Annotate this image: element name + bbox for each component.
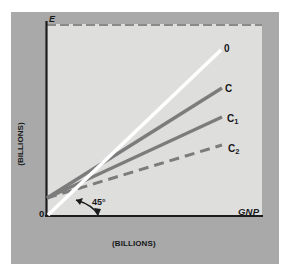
figure-root: E 0 GNP 45° 0 C C1 C2 (BILLIONS) (BILLIO… bbox=[0, 0, 291, 273]
series-label-reference-45: 0 bbox=[224, 44, 230, 54]
series-line-reference-45 bbox=[48, 50, 221, 215]
series-label-c1-subscript: 1 bbox=[234, 117, 238, 126]
series-line-c1 bbox=[47, 117, 222, 198]
y-axis-end-label: E bbox=[49, 15, 55, 24]
series-label-c: C bbox=[225, 84, 232, 94]
y-axis-title: (BILLIONS) bbox=[17, 109, 25, 179]
angle-annotation-label: 45° bbox=[92, 198, 106, 207]
chart-canvas bbox=[0, 0, 291, 273]
series-line-c bbox=[47, 88, 222, 198]
series-label-c2-subscript: 2 bbox=[235, 147, 239, 156]
series-label-c1: C1 bbox=[227, 114, 238, 126]
origin-label: 0 bbox=[39, 209, 44, 219]
angle-arrowhead-lower bbox=[94, 208, 101, 216]
x-axis-title: (BILLIONS) bbox=[112, 240, 156, 248]
series-label-c2: C2 bbox=[228, 144, 239, 156]
x-axis-end-label: GNP bbox=[238, 207, 259, 217]
